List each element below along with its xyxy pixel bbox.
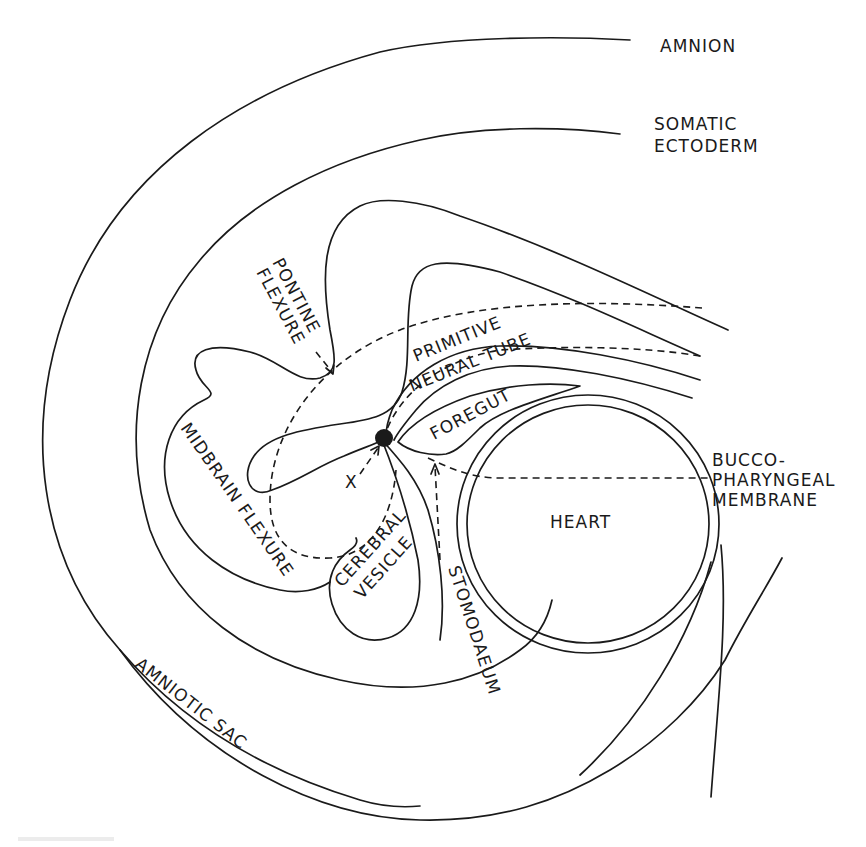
label-amniotic-sac: AMNIOTIC SAC	[132, 653, 252, 753]
label-somatic-ectoderm-1: SOMATIC	[654, 114, 737, 134]
label-midbrain-flexure: MIDBRAIN FLEXURE	[177, 419, 298, 580]
label-amnion: AMNION	[660, 36, 736, 56]
reference-point-dot-icon	[375, 429, 393, 447]
label-somatic-ectoderm-2: ECTODERM	[654, 136, 759, 156]
x-arrow-line	[360, 448, 378, 474]
primitive-neural-tube-dashed-inner	[386, 348, 700, 432]
amnion-line	[43, 38, 630, 807]
primitive-neural-tube-dashed-outer	[270, 303, 702, 558]
body-wall-line-1	[580, 562, 711, 775]
pontine-flexure-arrow-line	[316, 352, 332, 372]
forebrain-lobe-contour	[248, 263, 700, 492]
label-buccopharyngeal-3: MEMBRANE	[712, 490, 818, 510]
label-buccopharyngeal-1: BUCCO-	[712, 450, 786, 470]
faint-caption	[18, 837, 114, 841]
label-stomodaeum: STOMODAEUM	[444, 563, 505, 697]
embryo-diagram: AMNION SOMATIC ECTODERM PONTINE FLEXURE …	[0, 0, 866, 847]
label-heart: HEART	[550, 512, 611, 532]
somatic-ectoderm-line	[136, 129, 620, 688]
label-x-marker: X	[345, 472, 358, 492]
label-buccopharyngeal-2: PHARYNGEAL	[712, 470, 836, 490]
